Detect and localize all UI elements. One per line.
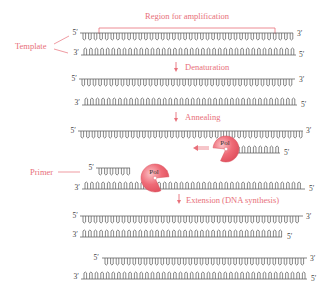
pcr-diagram: Region for amplification Template 5′3′3′…	[0, 0, 333, 294]
strand-end-label: 3′	[75, 98, 81, 107]
strand-end-label: 5′	[299, 50, 305, 59]
annealing-strand-bottom	[82, 182, 305, 189]
strand-end-label: 5′	[311, 274, 317, 283]
strand-end-label: 5′	[301, 100, 307, 109]
product1-strand-top	[80, 216, 303, 223]
strand-end-label: 3′	[310, 254, 316, 263]
denatured-strand-top	[79, 79, 295, 86]
strand-end-label: 5′	[73, 211, 79, 220]
polymerase-reverse: Pol	[213, 136, 239, 162]
forward-primer	[96, 168, 130, 175]
pol-label: Pol	[220, 139, 229, 147]
strand-end-label: 5′	[94, 253, 100, 262]
step-extension: Extension (DNA synthesis)	[177, 194, 279, 205]
primer-label: Primer	[30, 167, 53, 177]
product2-strand-bottom	[81, 272, 307, 279]
strand-end-label: 5′	[309, 184, 315, 193]
annealing-strand-top	[78, 131, 303, 138]
pol-label: Pol	[149, 168, 158, 176]
strand-end-label: 3′	[299, 75, 305, 84]
strand-end-label: 5′	[284, 148, 290, 157]
denatured-strand-bottom	[82, 98, 297, 105]
strand-end-label: 3′	[74, 272, 80, 281]
template-strand-top	[80, 33, 293, 40]
strand-end-label: 5′	[72, 74, 78, 83]
strand-end-label: 3′	[74, 48, 80, 57]
strand-end-label: 3′	[75, 183, 81, 192]
polymerase-forward: Pol	[141, 164, 169, 192]
strand-end-label: 3′	[297, 29, 303, 38]
product2-strand-top	[102, 258, 307, 265]
region-label: Region for amplification	[145, 11, 230, 21]
extension-label: Extension (DNA synthesis)	[186, 195, 279, 205]
product1-strand-bottom	[80, 230, 282, 237]
strand-end-label: 5′	[71, 126, 77, 135]
strand-end-label: 5′	[287, 232, 293, 241]
strand-end-label: 5′	[89, 163, 95, 172]
template-label: Template	[15, 41, 47, 51]
region-bracket: Region for amplification	[99, 11, 275, 34]
strand-end-label: 5′	[73, 28, 79, 37]
denaturation-label: Denaturation	[185, 62, 230, 72]
primer-label-group: Primer	[30, 167, 80, 177]
template-strand-bottom	[81, 48, 296, 55]
step-denaturation: Denaturation	[174, 62, 230, 72]
strand-end-label: 3′	[306, 212, 312, 221]
template-label-group: Template	[15, 36, 69, 53]
pcr-diagram-canvas: Region for amplification Template 5′3′3′…	[0, 0, 333, 294]
strand-end-label: 3′	[306, 126, 312, 135]
annealing-label: Annealing	[185, 112, 221, 122]
strand-end-label: 3′	[73, 230, 79, 239]
left-direction-arrow	[193, 145, 209, 151]
step-annealing: Annealing	[174, 112, 221, 122]
